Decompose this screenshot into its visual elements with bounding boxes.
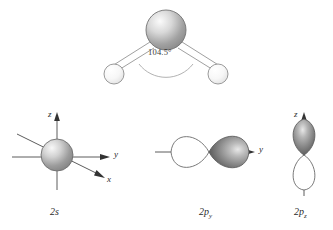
- p-orbital-lobe-empty-2pz: [293, 155, 315, 190]
- caption-2s-sub: s: [55, 206, 59, 217]
- p-orbital-lobe-filled-2py: [209, 136, 249, 168]
- orbital-2pz-group: [293, 112, 315, 196]
- s-orbital-sphere: [41, 139, 73, 171]
- hydrogen-sphere-right: [208, 64, 228, 84]
- axis-label-y-2s: y: [114, 150, 118, 159]
- caption-2py: 2py: [199, 207, 212, 220]
- p-orbital-lobe-filled-2pz: [293, 119, 315, 155]
- orbital-2s-group: [12, 112, 110, 190]
- axis-label-y-2py: y: [259, 145, 263, 154]
- bond-angle-label: 104.5°: [148, 48, 172, 57]
- caption-2pz-sub: z: [304, 212, 307, 220]
- axis-label-z-2pz: z: [294, 110, 298, 119]
- orbital-figure: 104.5° z y x y z 2s 2py 2pz: [0, 0, 333, 230]
- axis-arrow-z-2s: [54, 112, 60, 121]
- caption-2py-main: 2p: [199, 206, 209, 217]
- caption-2pz: 2pz: [294, 207, 307, 220]
- axis-arrow-y-2s: [100, 154, 110, 160]
- axis-arrow-x-2s: [94, 170, 105, 178]
- orbital-2py-group: [155, 136, 255, 168]
- p-orbital-lobe-empty-2py: [171, 137, 209, 168]
- hydrogen-sphere-left: [104, 64, 124, 84]
- axis-label-z-2s: z: [48, 110, 52, 119]
- axis-label-x-2s: x: [107, 175, 111, 184]
- caption-2py-sub: y: [209, 212, 212, 220]
- caption-2pz-main: 2p: [294, 206, 304, 217]
- caption-2s: 2s: [50, 207, 59, 217]
- bond-angle-arc: [139, 64, 193, 77]
- oxygen-sphere: [146, 10, 186, 50]
